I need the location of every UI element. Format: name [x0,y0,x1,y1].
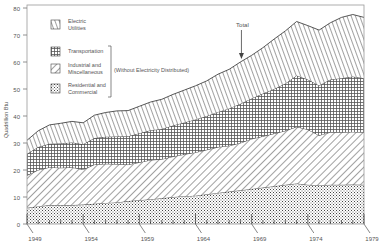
x-tick-label: 1964 [197,236,211,242]
legend-electric-utilities: ElectricUtilities [51,18,86,31]
y-tick-label: 40 [13,114,20,120]
svg-text:Electric: Electric [68,18,86,24]
legend-residential: Residential andCommercial [51,82,106,95]
bracket-note: (Without Electricity Distributed) [114,67,189,73]
svg-text:Industrial and: Industrial and [68,62,101,68]
y-tick-label: 80 [13,6,20,12]
legend-industrial: Industrial andMiscellaneous [51,62,103,75]
y-tick-label: 50 [13,87,20,93]
svg-text:Miscellaneous: Miscellaneous [68,69,103,75]
y-tick-label: 20 [13,168,20,174]
area-layers [27,15,364,225]
y-tick-label: 10 [13,195,20,201]
x-tick-label: 1969 [253,236,267,242]
stacked-area-chart: 0102030405060708019491954195919641969197… [0,0,380,250]
svg-text:Residential and: Residential and [68,82,106,88]
x-tick-label: 1979 [365,236,379,242]
svg-text:Transportation: Transportation [68,48,103,54]
legend-transportation: Transportation [51,47,103,56]
x-tick-label: 1959 [141,236,155,242]
y-tick-label: 30 [13,141,20,147]
total-annotation: Total [236,22,249,28]
y-tick-label: 0 [17,222,21,228]
svg-text:Commercial: Commercial [68,89,97,95]
x-tick-label: 1954 [84,236,98,242]
x-tick-label: 1974 [309,236,323,242]
legend-bracket [108,46,111,97]
y-tick-label: 70 [13,33,20,39]
y-axis-label: Quadrillion Btu [3,102,9,138]
y-tick-label: 60 [13,60,20,66]
svg-text:Utilities: Utilities [68,25,86,31]
x-tick-label: 1949 [28,236,42,242]
legend: ElectricUtilitiesTransportationIndustria… [51,18,189,97]
